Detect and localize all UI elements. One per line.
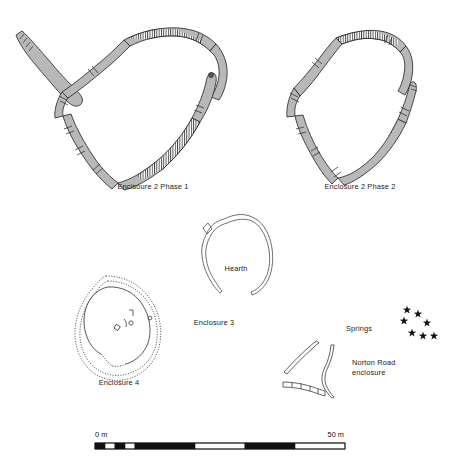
- star-icon: [408, 329, 416, 337]
- star-icon: [419, 332, 427, 340]
- phase2-ditch-circuit: [287, 30, 417, 185]
- phase2-causeways: [290, 35, 409, 177]
- norton-road-enclosure-plan: [283, 341, 334, 398]
- scale-bar: [95, 443, 345, 449]
- enclosure-4-plan: [75, 276, 161, 380]
- star-icon: [414, 310, 422, 318]
- star-icon: [400, 317, 408, 325]
- phase1-ditch-circuit: [55, 28, 227, 190]
- scale-bar-minor-segment: [95, 443, 105, 449]
- enclosure-2-phase-1-plan: [16, 28, 227, 190]
- caption-enclosure-3: Enclosure 3: [194, 318, 235, 328]
- caption-enclosure-4: Enclosure 4: [99, 378, 140, 388]
- caption-norton-road-line2: enclosure: [352, 368, 385, 378]
- site-plan-figure: [0, 0, 451, 473]
- scale-bar-minor-segment: [115, 443, 125, 449]
- scale-bar-major-segment: [195, 443, 245, 449]
- enclosure-2-phase-2-plan: [287, 30, 417, 185]
- scale-bar-minor-segment: [125, 443, 135, 449]
- scale-bar-major-segment: [295, 443, 345, 449]
- caption-norton-road-line1: Norton Road: [352, 358, 396, 368]
- enclosure-3-plan: [202, 215, 273, 295]
- scale-bar-min-label: 0 m: [95, 430, 107, 439]
- scale-bar-max-label: 50 m: [328, 430, 344, 439]
- phase2-hatched-north: [336, 30, 406, 52]
- scale-bar-minor-segment: [135, 443, 145, 449]
- star-icon: [430, 332, 438, 340]
- caption-enclosure-2-phase-1: Enclsoure 2 Phase 1: [117, 182, 188, 192]
- caption-enclosure-2-phase-2: Enclosure 2 Phase 2: [324, 182, 395, 192]
- label-hearth: Hearth: [224, 264, 247, 274]
- scale-bar-major-segment: [245, 443, 295, 449]
- scale-bar-minor-segment: [105, 443, 115, 449]
- label-springs: Springs: [346, 324, 372, 334]
- scale-bar-major-segment: [145, 443, 195, 449]
- star-icon: [423, 319, 431, 327]
- star-icon: [403, 306, 411, 314]
- springs-markers: [400, 306, 438, 340]
